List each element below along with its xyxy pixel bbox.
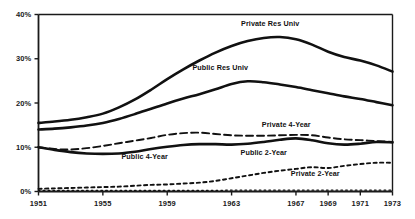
y-axis-tick-label: 20% (0, 99, 32, 108)
series-label-private-res-univ: Private Res Univ (241, 19, 299, 28)
series-line-private-4-year (39, 133, 393, 150)
series-label-public-res-univ: Public Res Univ (192, 63, 248, 72)
series-label-public-4-year: Public 4-Year (121, 152, 167, 161)
line-chart-plot (0, 0, 415, 219)
x-axis-tick-label: 1955 (83, 199, 123, 208)
x-axis-tick-label: 1963 (212, 199, 252, 208)
series-label-private-4-year: Private 4-Year (262, 120, 311, 129)
x-axis-tick-label: 1973 (373, 199, 413, 208)
x-axis-tick-label: 1959 (147, 199, 187, 208)
y-axis-tick-label: 40% (0, 10, 32, 19)
chart-container: 40%30%20%10%0% 1951195519591963196719691… (0, 0, 415, 219)
series-label-private-2-year: Private 2-Year (291, 169, 340, 178)
y-axis-tick-label: 10% (0, 143, 32, 152)
series-label-public-2-year: Public 2-Year (241, 148, 287, 157)
x-axis-tick-label: 1951 (19, 199, 59, 208)
series-line-public-res-univ (39, 81, 393, 129)
series-line-private-res-univ (39, 37, 393, 123)
y-axis-tick-label: 30% (0, 54, 32, 63)
y-axis-tick-label: 0% (0, 187, 32, 196)
chart-series-group (39, 37, 393, 190)
series-line-public-4-year (39, 138, 393, 153)
